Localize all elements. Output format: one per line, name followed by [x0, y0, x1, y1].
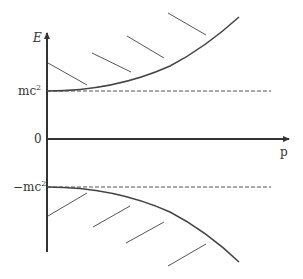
hatch-mark	[48, 193, 87, 216]
hatch-mark	[127, 36, 164, 58]
negative-energy-curve	[47, 187, 239, 262]
p-axis-label: p	[280, 145, 288, 159]
dispersion-diagram: E p 0 mc2 −mc2	[0, 0, 303, 279]
zero-label: 0	[34, 132, 42, 146]
hatch-mark	[48, 63, 87, 85]
hatch-mark	[168, 244, 206, 266]
hatch-mark	[126, 222, 164, 243]
hatch-mark	[92, 53, 131, 72]
e-axis-label: E	[32, 31, 42, 45]
hatch-mark	[168, 13, 206, 35]
hatch-mark	[93, 206, 130, 227]
neg-mc2-label: −mc2	[13, 179, 46, 194]
mc2-label: mc2	[18, 83, 41, 98]
positive-energy-curve	[47, 17, 239, 91]
